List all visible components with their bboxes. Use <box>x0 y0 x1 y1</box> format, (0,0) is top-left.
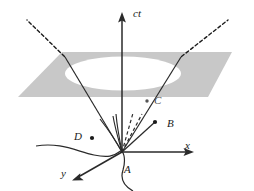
axis-label-ct: ct <box>133 8 141 19</box>
event-point-C <box>145 99 148 102</box>
axis-label-y: y <box>61 168 66 179</box>
event-label-B: B <box>167 118 174 129</box>
wavy-worldline <box>36 145 133 191</box>
event-point-B <box>153 120 157 124</box>
cone-edge-upper-left-dashed <box>27 20 65 57</box>
event-label-C: C <box>154 95 161 106</box>
worldline-dashed-1 <box>122 113 133 152</box>
worldline-dashed-2 <box>122 114 142 152</box>
event-point-D <box>90 136 94 140</box>
cone-edge-upper-right-dashed <box>182 20 229 57</box>
axis-label-x: x <box>185 140 190 151</box>
event-label-D: D <box>74 131 82 142</box>
event-label-A: A <box>124 164 131 175</box>
lightcone-figure: ct x y A B C D <box>0 0 254 191</box>
